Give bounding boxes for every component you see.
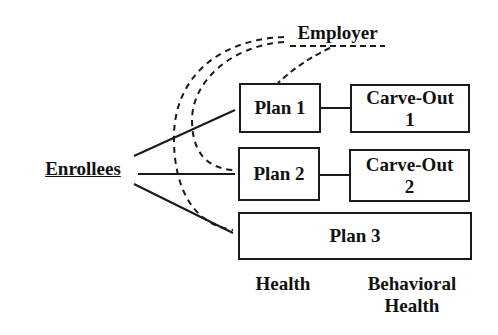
employer-to-plan1-dashed — [278, 48, 330, 83]
plan-3-box: Plan 3 — [238, 212, 472, 260]
behavioral-header-line2: Health — [352, 295, 472, 317]
behavioral-header-line1: Behavioral — [352, 273, 472, 295]
health-header-text: Health — [256, 273, 311, 294]
carve-out-1-box: Carve-Out 1 — [350, 84, 470, 133]
employer-to-plan3-dashed-arc — [174, 37, 284, 230]
employer-text: Employer — [297, 22, 377, 43]
carve-out-2-box: Carve-Out 2 — [349, 149, 470, 202]
carve-out-1-number: 1 — [405, 109, 415, 131]
employer-label: Employer — [290, 22, 385, 44]
plan-2-label: Plan 2 — [253, 163, 304, 185]
plan-2-box: Plan 2 — [238, 147, 320, 201]
health-column-header: Health — [238, 273, 328, 295]
plan-1-box: Plan 1 — [239, 83, 321, 133]
enrollees-label: Enrollees — [28, 158, 138, 180]
plan-3-label: Plan 3 — [329, 225, 380, 247]
enrollees-text: Enrollees — [45, 158, 121, 179]
carve-out-1-label: Carve-Out — [366, 87, 454, 109]
carve-out-2-label: Carve-Out — [366, 154, 454, 176]
carve-out-2-number: 2 — [405, 176, 415, 198]
enrollees-to-plan1-line — [134, 110, 235, 156]
plan-1-label: Plan 1 — [254, 97, 305, 119]
behavioral-health-column-header: Behavioral Health — [352, 273, 472, 317]
